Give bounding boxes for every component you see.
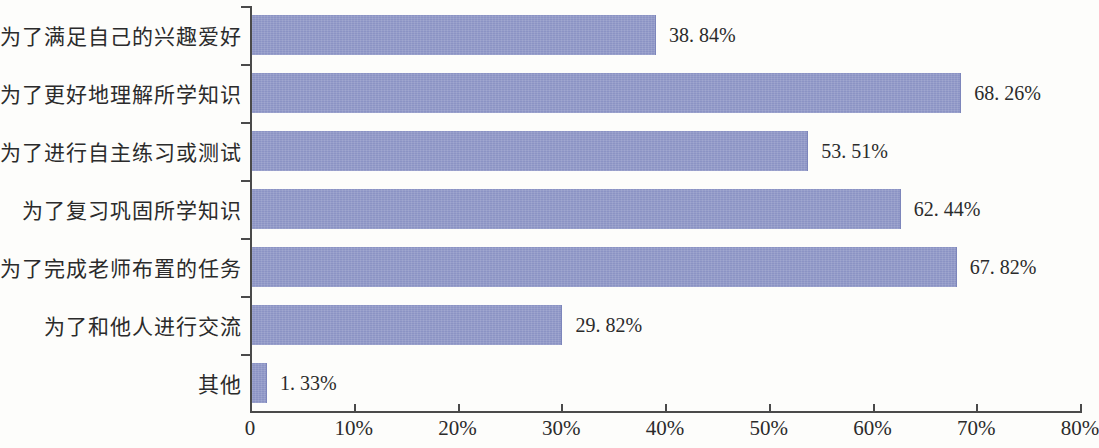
bar — [252, 305, 561, 345]
value-axis-tick — [665, 404, 667, 413]
bar-fill — [252, 189, 901, 229]
bar — [252, 131, 807, 171]
plot-area: 为了满足自己的兴趣爱好38. 84%为了更好地理解所学知识68. 26%为了进行… — [0, 0, 1099, 448]
bar — [252, 15, 655, 55]
bar-value-label: 1. 33% — [280, 363, 337, 403]
bar-value-label: 53. 51% — [821, 131, 888, 171]
category-tick — [241, 180, 252, 182]
bar-row: 为了进行自主练习或测试53. 51% — [0, 122, 1099, 180]
value-axis-tick — [561, 404, 563, 413]
value-axis-tick — [354, 404, 356, 413]
bar-value-label: 62. 44% — [914, 189, 981, 229]
category-label: 为了更好地理解所学知识 — [0, 64, 242, 122]
bar-row: 为了满足自己的兴趣爱好38. 84% — [0, 6, 1099, 64]
bar-fill — [252, 73, 961, 113]
bar-row: 为了和他人进行交流29. 82% — [0, 296, 1099, 354]
category-label: 其他 — [0, 354, 242, 412]
bar-value-label: 29. 82% — [575, 305, 642, 345]
value-axis-tick-label: 60% — [853, 416, 892, 441]
bar-fill — [252, 247, 957, 287]
bar-fill — [252, 131, 808, 171]
value-axis-tick-label: 0 — [245, 416, 256, 441]
bar — [252, 363, 266, 403]
category-tick — [241, 238, 252, 240]
bar-row: 为了完成老师布置的任务67. 82% — [0, 238, 1099, 296]
category-tick — [241, 64, 252, 66]
category-label: 为了完成老师布置的任务 — [0, 238, 242, 296]
value-axis-tick-label: 10% — [335, 416, 374, 441]
bar-value-label: 67. 82% — [970, 247, 1037, 287]
bar-value-label: 68. 26% — [974, 73, 1041, 113]
bar — [252, 247, 956, 287]
value-axis-tick — [1080, 404, 1082, 413]
value-axis-tick — [458, 404, 460, 413]
bar-value-label: 38. 84% — [669, 15, 736, 55]
value-axis-tick — [250, 404, 252, 413]
horizontal-bar-chart: 为了满足自己的兴趣爱好38. 84%为了更好地理解所学知识68. 26%为了进行… — [0, 0, 1099, 448]
category-label: 为了复习巩固所学知识 — [0, 180, 242, 238]
category-label: 为了进行自主练习或测试 — [0, 122, 242, 180]
bar — [252, 73, 960, 113]
value-axis-tick — [976, 404, 978, 413]
bar-fill — [252, 305, 562, 345]
bar-row: 其他1. 33% — [0, 354, 1099, 412]
category-tick — [241, 354, 252, 356]
value-axis-tick-label: 50% — [750, 416, 789, 441]
bar-row: 为了复习巩固所学知识62. 44% — [0, 180, 1099, 238]
category-tick — [241, 122, 252, 124]
value-axis-tick-label: 30% — [542, 416, 581, 441]
value-axis-tick-label: 80% — [1061, 416, 1099, 441]
value-axis-tick-label: 70% — [957, 416, 996, 441]
category-tick — [241, 6, 252, 8]
value-axis-tick-label: 40% — [646, 416, 685, 441]
category-label: 为了和他人进行交流 — [0, 296, 242, 354]
category-label: 为了满足自己的兴趣爱好 — [0, 6, 242, 64]
value-axis-tick — [873, 404, 875, 413]
category-tick — [241, 296, 252, 298]
value-axis-tick-label: 20% — [438, 416, 477, 441]
bar-fill — [252, 363, 267, 403]
bar-fill — [252, 15, 656, 55]
bar-row: 为了更好地理解所学知识68. 26% — [0, 64, 1099, 122]
bar — [252, 189, 900, 229]
value-axis-tick — [769, 404, 771, 413]
